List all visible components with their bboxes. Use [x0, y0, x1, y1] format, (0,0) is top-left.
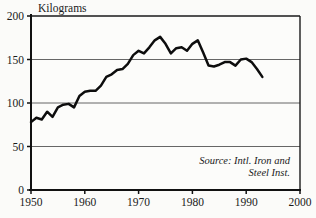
x-tick-label-1980: 1980 [181, 196, 204, 208]
y-axis-label: Kilograms [38, 2, 87, 15]
chart-container: 050100150200 195019601970198019902000 Ki… [0, 0, 316, 218]
y-tick-label-150: 150 [7, 54, 25, 66]
y-tick-label-0: 0 [18, 184, 24, 196]
y-tick-label-200: 200 [7, 10, 25, 22]
x-tick-label-1970: 1970 [127, 196, 150, 208]
x-axis-ticks-group: 195019601970198019902000 [20, 190, 312, 208]
x-tick-label-1960: 1960 [73, 196, 96, 208]
y-tick-label-100: 100 [7, 97, 25, 109]
line-chart: 050100150200 195019601970198019902000 Ki… [0, 0, 316, 218]
source-note-line-1: Source: Intl. Iron and [199, 155, 291, 166]
x-tick-label-2000: 2000 [289, 196, 312, 208]
y-axis-ticks-group: 050100150200 [7, 10, 31, 196]
source-note-line-2: Steel Inst. [249, 167, 290, 178]
x-tick-label-1990: 1990 [235, 196, 258, 208]
x-tick-label-1950: 1950 [20, 196, 43, 208]
y-tick-label-50: 50 [13, 141, 25, 153]
